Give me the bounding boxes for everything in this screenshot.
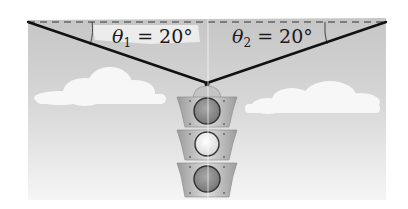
lamp-bottom-icon — [194, 166, 220, 192]
figure-canvas — [0, 0, 408, 209]
theta1-symbol: θ — [112, 25, 123, 47]
traffic-light-figure: θ1 = 20° θ2 = 20° — [0, 0, 408, 209]
angle-label-theta2: θ2 = 20° — [232, 27, 313, 49]
angle-label-theta1: θ1 = 20° — [112, 27, 193, 49]
theta2-subscript: 2 — [243, 36, 251, 50]
theta1-equals: = — [137, 25, 153, 47]
theta1-value: 20° — [159, 25, 193, 47]
theta2-value: 20° — [279, 25, 313, 47]
lamp-top-icon — [194, 98, 220, 124]
theta1-subscript: 1 — [123, 36, 131, 50]
lamp-middle-icon — [195, 132, 219, 156]
theta2-equals: = — [257, 25, 273, 47]
theta2-symbol: θ — [232, 25, 243, 47]
